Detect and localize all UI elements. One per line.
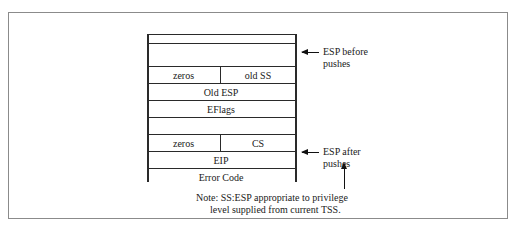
cell-zeros-cs: zeros [147,139,220,149]
cell-old-ss: old SS [221,71,295,81]
stack-line-above-ss [147,66,297,67]
esp-after-arrow-icon [302,152,319,153]
stack-diagram: zeros old SS Old ESP EFlags zeros CS EIP… [147,34,297,182]
cut-off-caption-sliver [0,0,518,6]
note-pointer-arrow-icon [344,168,345,189]
privilege-note-line1: Note: SS:ESP appropriate to privilege [196,192,348,204]
esp-before-arrow-icon [302,52,319,53]
cell-eflags: EFlags [147,105,295,115]
stack-line-below-cs [147,134,297,135]
stack-line-below-empty [147,43,297,44]
stack-line-below-eflags [147,117,297,118]
stack-line-below-eip [147,151,297,152]
esp-before-label-line1: ESP before [323,46,368,58]
stack-line-below-error [147,168,297,169]
figure-canvas: zeros old SS Old ESP EFlags zeros CS EIP… [0,0,518,232]
cell-cs: CS [221,139,295,149]
cell-error-code: Error Code [147,173,295,183]
esp-before-label: ESP before pushes [323,46,368,69]
stack-line-top [147,34,297,35]
esp-before-label-line2: pushes [323,58,368,70]
privilege-note: Note: SS:ESP appropriate to privilege le… [196,192,348,216]
esp-after-label-line1: ESP after [323,146,361,158]
stack-line-below-old-esp [147,100,297,101]
privilege-note-line2: level supplied from current TSS. [196,204,348,216]
stack-line-below-ss [147,83,297,84]
cell-old-esp: Old ESP [147,88,295,98]
cell-eip: EIP [147,156,295,166]
cell-zeros-ss: zeros [147,71,220,81]
stack-right-rail [295,34,297,182]
